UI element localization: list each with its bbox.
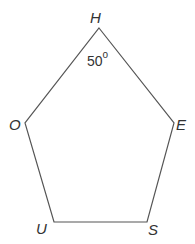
angle-value: 50 [87,53,103,69]
angle-label-h: 50o [87,52,108,68]
vertex-label-h: H [90,10,101,25]
degree-symbol: o [103,49,109,60]
vertex-label-u: U [36,221,47,236]
pentagon-diagram [0,0,195,244]
vertex-label-o: O [9,117,21,132]
vertex-label-s: S [148,222,158,237]
vertex-label-e: E [176,117,186,132]
